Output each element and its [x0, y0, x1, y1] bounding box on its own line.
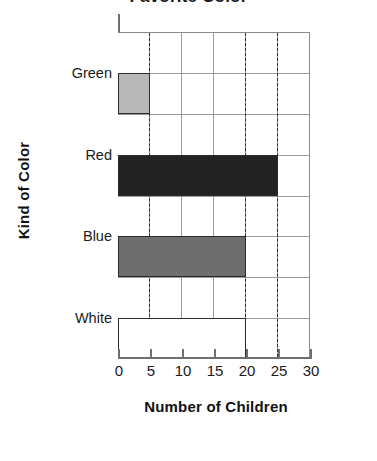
x-tick-25 [278, 349, 280, 359]
x-axis-title: Number of Children [96, 398, 336, 415]
gridline-horizontal-2 [118, 114, 309, 115]
bar-blue [118, 236, 246, 277]
y-axis-title: Kind of Color [15, 116, 32, 266]
plot-area [118, 32, 310, 358]
category-label-green: Green [4, 65, 112, 81]
x-tick-label-30: 30 [291, 362, 331, 379]
gridline-horizontal-6 [118, 277, 309, 278]
x-tick-10 [182, 349, 184, 359]
x-tick-20 [246, 349, 248, 359]
x-tick-15 [214, 349, 216, 359]
bar-red [118, 155, 278, 196]
x-tick-30 [310, 349, 312, 359]
bar-green [118, 73, 150, 114]
gridline-horizontal-4 [118, 196, 309, 197]
category-label-white: White [4, 310, 112, 326]
x-tick-5 [150, 349, 152, 359]
x-tick-0 [118, 349, 120, 359]
